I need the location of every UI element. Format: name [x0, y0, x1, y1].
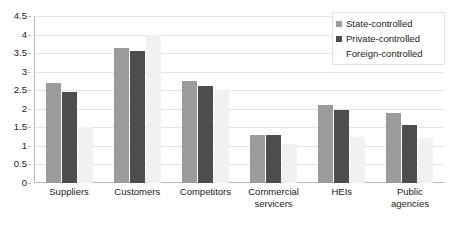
bar — [46, 83, 61, 183]
bar — [198, 86, 213, 183]
bar — [334, 110, 349, 183]
x-tick-label: HEIs — [308, 186, 376, 198]
x-tick-label-line: Competitors — [171, 186, 239, 198]
x-tick-label: Commercialservicers — [240, 186, 308, 209]
x-tick-label-line: agencies — [376, 198, 444, 210]
bar-group — [240, 16, 308, 183]
x-tick-label-line: Suppliers — [35, 186, 103, 198]
x-tick-label-line: servicers — [240, 198, 308, 210]
y-tick-label: 1.5 — [14, 123, 27, 133]
y-tick-label: 4.5 — [14, 11, 27, 21]
x-tick-label: Customers — [103, 186, 171, 198]
bar — [182, 81, 197, 183]
y-tick-mark — [28, 164, 31, 165]
legend-label: Private-controlled — [346, 34, 420, 44]
bar-group — [103, 16, 171, 183]
x-tick-label-line: HEIs — [308, 186, 376, 198]
legend-label: State-controlled — [346, 19, 413, 29]
bar — [146, 35, 161, 183]
x-tick-label-line: Public — [376, 186, 444, 198]
bar — [282, 144, 297, 183]
y-tick-mark — [28, 72, 31, 73]
bar — [386, 113, 401, 184]
y-tick-label: 2 — [22, 104, 27, 114]
y-tick-label: 2.5 — [14, 85, 27, 95]
x-tick-label-line: Customers — [103, 186, 171, 198]
bar — [214, 90, 229, 183]
y-tick-label: 3 — [22, 67, 27, 77]
bar-group — [35, 16, 103, 183]
y-tick-mark — [28, 109, 31, 110]
y-tick-label: 0 — [22, 178, 27, 188]
y-tick-label: 1 — [22, 141, 27, 151]
bar — [266, 135, 281, 183]
bar — [62, 92, 77, 183]
bar — [114, 48, 129, 183]
x-tick-label: Publicagencies — [376, 186, 444, 209]
legend-label: Foreign-controlled — [346, 49, 423, 59]
legend-item[interactable]: State-controlled — [336, 16, 442, 31]
bar — [78, 127, 93, 183]
legend-swatch-icon — [336, 21, 342, 27]
y-tick-mark — [28, 183, 31, 184]
chart-legend: State-controlledPrivate-controlledForeig… — [332, 12, 445, 65]
x-tick-label-line: Commercial — [240, 186, 308, 198]
bar — [350, 137, 365, 183]
bar — [250, 135, 265, 183]
legend-item[interactable]: Foreign-controlled — [336, 46, 442, 61]
bar — [318, 105, 333, 183]
y-tick-label: 4 — [22, 30, 27, 40]
y-tick-mark — [28, 127, 31, 128]
x-axis: SuppliersCustomersCompetitorsCommercials… — [35, 186, 444, 230]
y-tick-mark — [28, 35, 31, 36]
y-tick-mark — [28, 90, 31, 91]
y-tick-label: 0.5 — [14, 160, 27, 170]
bar-chart: 00.511.522.533.544.5 SuppliersCustomersC… — [0, 0, 450, 234]
bar — [402, 125, 417, 183]
bar — [130, 51, 145, 183]
bar — [418, 138, 433, 183]
x-tick-label: Suppliers — [35, 186, 103, 198]
x-tick-label: Competitors — [171, 186, 239, 198]
legend-swatch-icon — [336, 36, 342, 42]
y-tick-mark — [28, 16, 31, 17]
legend-item[interactable]: Private-controlled — [336, 31, 442, 46]
bar-group — [171, 16, 239, 183]
y-tick-label: 3.5 — [14, 48, 27, 58]
y-tick-mark — [28, 146, 31, 147]
legend-swatch-icon — [336, 51, 342, 57]
y-tick-mark — [28, 53, 31, 54]
y-axis: 00.511.522.533.544.5 — [0, 16, 31, 183]
